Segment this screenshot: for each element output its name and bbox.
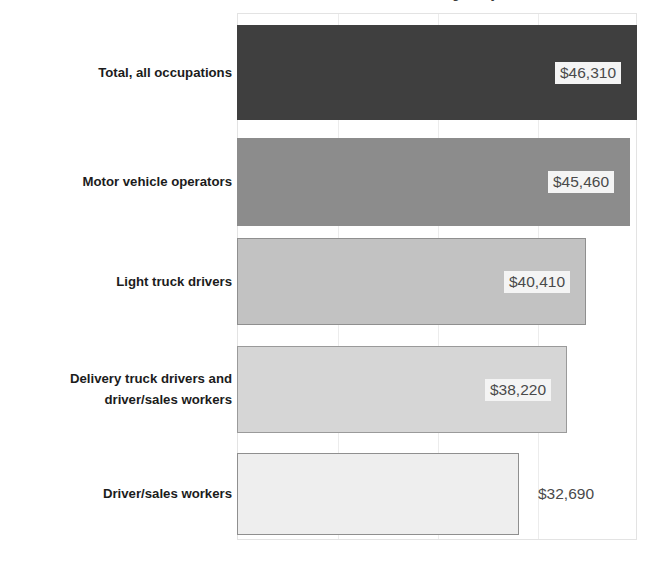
category-label: Light truck drivers <box>0 271 232 292</box>
category-label-line: driver/sales workers <box>0 389 232 410</box>
bar-row: Motor vehicle operators$45,460 <box>0 138 651 226</box>
category-label: Total, all occupations <box>0 62 232 83</box>
category-label-line: Light truck drivers <box>0 271 232 292</box>
category-label: Motor vehicle operators <box>0 171 232 192</box>
bar-value-label: $40,410 <box>504 271 570 293</box>
chart-title: Median annual wage, May 2019 <box>237 0 637 3</box>
category-label: Driver/sales workers <box>0 483 232 504</box>
bar-value-label: $38,220 <box>485 379 551 401</box>
category-label-line: Motor vehicle operators <box>0 171 232 192</box>
bar-row: Light truck drivers$40,410 <box>0 238 651 325</box>
bar[interactable] <box>237 453 519 535</box>
category-label: Delivery truck drivers anddriver/sales w… <box>0 368 232 411</box>
bar-chart: Median annual wage, May 2019 Total, all … <box>0 0 651 566</box>
category-label-line: Delivery truck drivers and <box>0 368 232 389</box>
category-label-line: Driver/sales workers <box>0 483 232 504</box>
bar-row: Total, all occupations$46,310 <box>0 25 651 120</box>
category-label-line: Total, all occupations <box>0 62 232 83</box>
bar-value-label: $46,310 <box>555 62 621 84</box>
bar-row: Driver/sales workers$32,690 <box>0 453 651 535</box>
bar-value-label: $45,460 <box>548 171 614 193</box>
bar-value-label: $32,690 <box>533 483 599 505</box>
bar-row: Delivery truck drivers anddriver/sales w… <box>0 346 651 433</box>
